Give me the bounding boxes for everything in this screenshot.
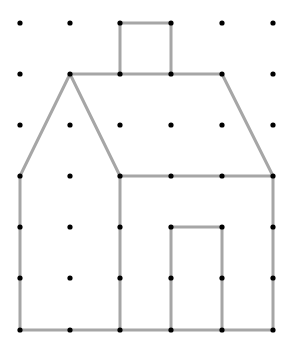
grid-dot bbox=[67, 20, 72, 25]
door bbox=[171, 227, 222, 330]
grid-dot bbox=[168, 20, 173, 25]
grid-dot bbox=[270, 122, 275, 127]
grid-dot bbox=[168, 327, 173, 332]
grid-dot bbox=[168, 173, 173, 178]
grid-dot bbox=[219, 122, 224, 127]
grid-dot bbox=[168, 122, 173, 127]
grid-dot bbox=[219, 173, 224, 178]
grid-dot bbox=[17, 327, 22, 332]
grid-dot bbox=[219, 275, 224, 280]
grid-dot bbox=[67, 224, 72, 229]
grid-dot bbox=[270, 224, 275, 229]
grid-dot bbox=[17, 20, 22, 25]
grid-dot bbox=[17, 173, 22, 178]
grid-dot bbox=[67, 327, 72, 332]
grid-dot bbox=[67, 122, 72, 127]
grid-dot bbox=[168, 275, 173, 280]
house-outline bbox=[20, 23, 273, 330]
grid-dot bbox=[219, 71, 224, 76]
grid-dot bbox=[17, 275, 22, 280]
grid-dot bbox=[270, 20, 275, 25]
grid-dot bbox=[168, 224, 173, 229]
dot-grid-house-diagram bbox=[0, 0, 298, 352]
grid-dot bbox=[270, 327, 275, 332]
grid-dot bbox=[67, 71, 72, 76]
grid-dot bbox=[219, 224, 224, 229]
grid-dot bbox=[270, 275, 275, 280]
grid-dot bbox=[219, 327, 224, 332]
grid-dot bbox=[117, 173, 122, 178]
roof-right-slope bbox=[222, 74, 273, 176]
grid-dot bbox=[270, 173, 275, 178]
gable-right-slope bbox=[70, 74, 120, 176]
grid-dot bbox=[67, 173, 72, 178]
grid-dot bbox=[17, 224, 22, 229]
grid-dot bbox=[168, 71, 173, 76]
gable-left-slope bbox=[20, 74, 70, 176]
grid-dot bbox=[117, 122, 122, 127]
grid-dot bbox=[117, 224, 122, 229]
grid-dot bbox=[117, 20, 122, 25]
grid-dot bbox=[270, 71, 275, 76]
grid-dot bbox=[67, 275, 72, 280]
grid-dot bbox=[219, 20, 224, 25]
grid-dot bbox=[117, 71, 122, 76]
grid-dot bbox=[117, 327, 122, 332]
grid-dot bbox=[17, 71, 22, 76]
chimney bbox=[120, 23, 171, 74]
grid-dot bbox=[117, 275, 122, 280]
grid-dot bbox=[17, 122, 22, 127]
